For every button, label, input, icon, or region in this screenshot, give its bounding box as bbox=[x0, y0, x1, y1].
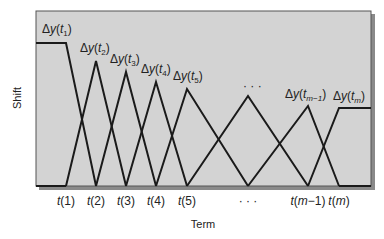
x-tick-label: t(1) bbox=[57, 194, 75, 208]
x-tick-label: t(m−1) bbox=[290, 194, 325, 208]
x-tick-label: t(2) bbox=[87, 194, 105, 208]
peak-label: Δy(tm) bbox=[333, 89, 365, 105]
peak-label: · · · bbox=[243, 79, 262, 93]
x-tick-labels: t(1)t(2)t(3)t(4)t(5)· · ·t(m−1)t(m) bbox=[57, 194, 350, 208]
peak-label: Δy(t4) bbox=[141, 62, 171, 78]
peak-label: Δy(t5) bbox=[173, 69, 203, 85]
x-tick-label: t(3) bbox=[117, 194, 135, 208]
x-tick-label: t(5) bbox=[178, 194, 196, 208]
peak-label: Δy(t2) bbox=[80, 41, 110, 57]
term-structure-shift-diagram: Δy(t1)Δy(t2)Δy(t3)Δy(t4)Δy(t5)· · ·Δy(tm… bbox=[0, 0, 384, 239]
x-axis-title: Term bbox=[191, 218, 215, 230]
x-tick-label: t(4) bbox=[147, 194, 165, 208]
y-axis-title: Shift bbox=[11, 87, 23, 109]
peak-label: Δy(t1) bbox=[42, 22, 72, 38]
x-tick-label: t(m) bbox=[328, 194, 349, 208]
peak-label: Δy(t3) bbox=[110, 52, 140, 68]
x-tick-label: · · · bbox=[239, 194, 258, 208]
